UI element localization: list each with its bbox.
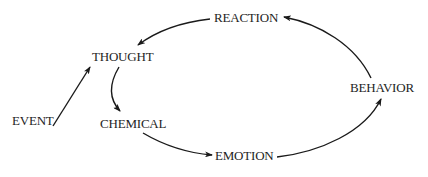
arrow-event-to-thought	[53, 67, 90, 126]
arrow-emotion-to-behavior	[277, 99, 381, 157]
arrow-reaction-to-thought	[138, 19, 210, 45]
node-event: EVENT	[12, 113, 54, 128]
arrow-thought-to-chemical	[112, 67, 120, 111]
arrow-behavior-to-reaction	[284, 17, 371, 78]
node-chemical: CHEMICAL	[100, 116, 166, 131]
node-emotion: EMOTION	[215, 148, 274, 163]
node-behavior: BEHAVIOR	[350, 80, 414, 95]
node-reaction: REACTION	[214, 10, 278, 25]
node-thought: THOUGHT	[92, 49, 153, 64]
event-thought-cycle-diagram: REACTION THOUGHT EVENT CHEMICAL EMOTION …	[0, 0, 428, 177]
arrow-chemical-to-emotion	[143, 133, 212, 155]
